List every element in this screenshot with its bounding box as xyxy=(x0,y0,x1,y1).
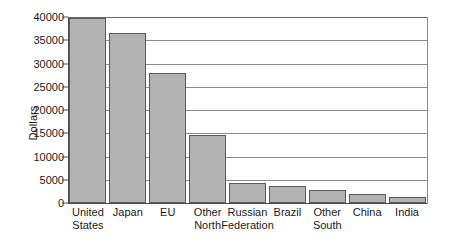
y-tick-mark xyxy=(62,40,68,41)
bar xyxy=(309,190,346,203)
y-tick-label: 10000 xyxy=(24,151,64,162)
y-tick-mark xyxy=(62,203,68,204)
bars-layer xyxy=(68,17,427,203)
bar xyxy=(389,197,426,203)
x-axis-tick-labels: United StatesJapanEUOther NorthRussian F… xyxy=(68,206,427,246)
bar xyxy=(229,183,266,203)
y-tick-mark xyxy=(62,86,68,87)
y-tick-label: 5000 xyxy=(24,174,64,185)
plot-right-spine xyxy=(427,17,428,204)
y-tick-label: 20000 xyxy=(24,105,64,116)
y-tick-label: 25000 xyxy=(24,81,64,92)
bar xyxy=(149,73,186,203)
y-tick-label: 30000 xyxy=(24,58,64,69)
bar xyxy=(349,194,386,203)
bar xyxy=(109,33,146,203)
y-tick-mark xyxy=(62,63,68,64)
y-tick-label: 40000 xyxy=(24,12,64,23)
bar-chart: Dollars 05000100001500020000250003000035… xyxy=(0,0,460,246)
y-tick-mark xyxy=(62,17,68,18)
x-tick-label: India xyxy=(376,206,438,219)
y-tick-label: 35000 xyxy=(24,35,64,46)
y-tick-mark xyxy=(62,179,68,180)
y-tick-mark xyxy=(62,133,68,134)
y-tick-label: 15000 xyxy=(24,128,64,139)
bar xyxy=(69,18,106,203)
bar xyxy=(189,135,226,203)
y-tick-mark xyxy=(62,110,68,111)
y-tick-mark xyxy=(62,156,68,157)
bar xyxy=(269,186,306,203)
